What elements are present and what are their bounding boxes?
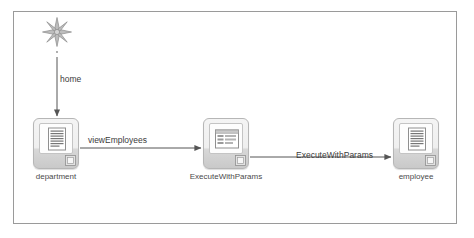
asterisk-starburst-icon [41,16,73,48]
node-employee-label: employee [399,172,434,182]
small-page-badge-icon [235,155,246,166]
node-executewithparams-panel [209,123,243,154]
small-page-badge-icon [65,155,76,166]
diagram-canvas: home viewEmployees ExecuteWithParams dep… [0,0,474,238]
document-page-icon [40,124,74,155]
node-executewithparams[interactable]: ExecuteWithParams [203,118,249,169]
node-department-panel [39,123,73,154]
edge-label-executewithparams: ExecuteWithParams [296,150,373,160]
edge-label-home: home [60,74,81,84]
node-executewithparams-label: ExecuteWithParams [190,172,262,182]
edge-label-viewemployees: viewEmployees [88,135,147,145]
document-page-icon [400,124,434,155]
form-panel-icon [210,124,244,155]
node-employee[interactable]: employee [393,118,439,169]
node-department-label: department [36,172,76,182]
node-department[interactable]: department [33,118,79,169]
start-marker[interactable] [41,16,73,48]
small-page-badge-icon [425,155,436,166]
node-employee-panel [399,123,433,154]
